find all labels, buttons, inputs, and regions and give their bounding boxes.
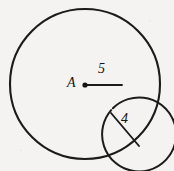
annulus-segment-label: 4 [121, 112, 128, 126]
center-point-label: A [67, 76, 76, 90]
figure-canvas [0, 0, 174, 171]
inner-radius-label: 5 [98, 62, 105, 76]
inner-circle [102, 97, 174, 171]
geometry-figure: A 5 4 [0, 0, 174, 171]
center-point-dot [82, 82, 87, 87]
